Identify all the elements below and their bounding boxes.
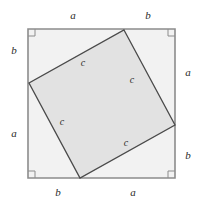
label-hypotenuse-c-right: c — [130, 75, 134, 85]
label-top-side-b: b — [145, 10, 151, 21]
label-right-side-b: b — [185, 150, 191, 161]
label-left-side-b: b — [11, 45, 17, 56]
label-hypotenuse-c-top: c — [81, 58, 85, 68]
label-top-side-a: a — [70, 10, 76, 21]
geometry-figure-canvas — [0, 0, 199, 208]
label-hypotenuse-c-left: c — [60, 117, 64, 127]
label-left-side-a: a — [11, 128, 17, 139]
label-hypotenuse-c-bottom: c — [124, 138, 128, 148]
label-bottom-side-b: b — [55, 187, 61, 198]
label-right-side-a: a — [185, 67, 191, 78]
label-bottom-side-a: a — [130, 187, 136, 198]
pythagorean-theorem-proof-diagram: a b a b b a b a c c c c — [0, 0, 199, 208]
